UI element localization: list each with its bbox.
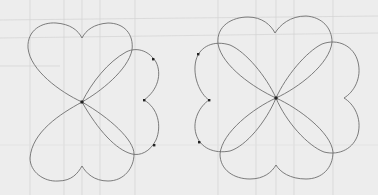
center-point xyxy=(81,101,84,104)
marked-point xyxy=(208,99,210,101)
marked-point xyxy=(198,141,200,143)
center-point xyxy=(275,97,278,100)
marked-point xyxy=(197,53,199,55)
marked-point xyxy=(153,144,155,146)
marked-point xyxy=(152,58,154,60)
diagram-canvas xyxy=(0,0,378,195)
marked-point xyxy=(143,99,145,101)
